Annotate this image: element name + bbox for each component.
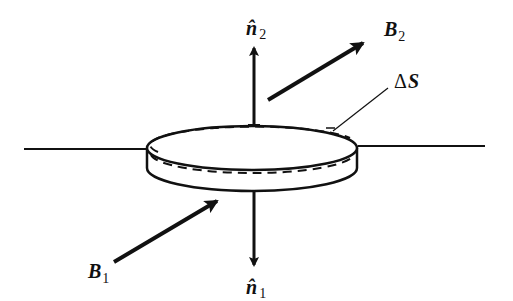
pillbox-top-face bbox=[147, 126, 357, 170]
field-b1-arrow bbox=[114, 201, 217, 262]
diagram-canvas: n̂2 B2 ΔS B1 n̂1 bbox=[0, 0, 513, 301]
label-b1: B1 bbox=[87, 260, 109, 286]
label-n2: n̂2 bbox=[246, 17, 266, 42]
surface-leader-line bbox=[333, 88, 388, 131]
field-b2-arrow bbox=[268, 43, 363, 100]
label-delta-s: ΔS bbox=[394, 70, 419, 92]
label-n1: n̂1 bbox=[246, 276, 266, 301]
label-b2: B2 bbox=[383, 18, 405, 44]
pillbox-diagram: n̂2 B2 ΔS B1 n̂1 bbox=[0, 0, 513, 301]
